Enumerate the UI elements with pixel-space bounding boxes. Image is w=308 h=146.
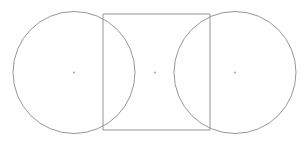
right-circle-center-dot (234, 72, 236, 74)
left-circle-center-dot (73, 72, 75, 74)
geometry-svg (0, 0, 308, 146)
rectangle-center-dot (154, 72, 156, 74)
geometry-figure-canvas (0, 0, 308, 146)
